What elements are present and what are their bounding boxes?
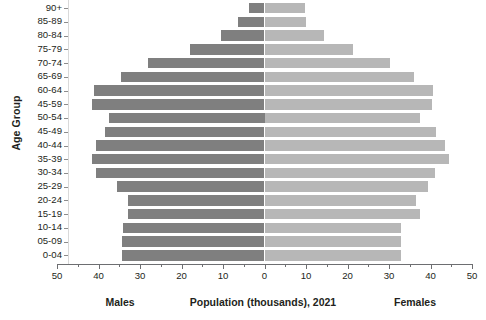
x-axis-major-tick <box>348 264 349 269</box>
caption-males: Males <box>60 296 180 308</box>
bar-female <box>265 85 433 95</box>
bar-male <box>122 236 264 246</box>
y-axis-tick-label: 20-24 <box>16 195 62 205</box>
bar-male <box>105 127 265 137</box>
bar-female <box>265 99 432 109</box>
x-axis-major-tick <box>265 264 266 269</box>
y-axis-tick-label: 60-64 <box>16 85 62 95</box>
bar-female <box>265 209 421 219</box>
y-axis-tick <box>64 91 68 92</box>
x-axis-minor-tick <box>410 264 411 267</box>
y-axis-tick <box>64 228 68 229</box>
bar-male <box>238 17 265 27</box>
y-axis-tick-label: 15-19 <box>16 209 62 219</box>
bar-male <box>128 209 265 219</box>
bar-male <box>92 154 264 164</box>
bar-male <box>128 195 265 205</box>
x-axis-minor-tick <box>202 264 203 267</box>
bar-row <box>57 127 472 137</box>
y-axis-tick-label: 0-04 <box>16 250 62 260</box>
bar-female <box>265 223 402 233</box>
caption-females: Females <box>360 296 470 308</box>
bar-female <box>265 44 353 54</box>
x-axis-major-tick <box>223 264 224 269</box>
bar-row <box>57 72 472 82</box>
x-axis-major-tick <box>57 264 58 269</box>
x-axis-minor-tick <box>119 264 120 267</box>
bar-female <box>265 236 401 246</box>
y-axis-tick-label: 05-09 <box>16 236 62 246</box>
y-axis-tick-label: 45-49 <box>16 126 62 136</box>
x-axis-tick-label: 50 <box>42 270 72 281</box>
y-axis-tick <box>64 132 68 133</box>
y-axis-tick <box>64 159 68 160</box>
bar-female <box>265 3 306 13</box>
y-axis-tick-label: 65-69 <box>16 71 62 81</box>
bar-female <box>265 250 401 260</box>
bar-row <box>57 17 472 27</box>
y-axis-tick <box>64 200 68 201</box>
y-axis-tick <box>64 63 68 64</box>
y-axis-tick <box>64 36 68 37</box>
bar-female <box>265 168 435 178</box>
x-axis-minor-tick <box>161 264 162 267</box>
bar-male <box>123 223 264 233</box>
y-axis-tick <box>64 77 68 78</box>
y-axis-tick-label: 75-79 <box>16 44 62 54</box>
population-pyramid-chart: Age Group 90+85-8980-8475-7970-7465-6960… <box>0 0 486 320</box>
y-axis-tick-label: 35-39 <box>16 154 62 164</box>
bar-row <box>57 154 472 164</box>
y-axis-tick-label: 80-84 <box>16 30 62 40</box>
x-axis-minor-tick <box>78 264 79 267</box>
bar-row <box>57 99 472 109</box>
bar-male <box>92 99 264 109</box>
x-axis-tick-label: 10 <box>208 270 238 281</box>
bar-female <box>265 113 421 123</box>
bar-row <box>57 195 472 205</box>
bar-row <box>57 168 472 178</box>
bar-male <box>121 72 264 82</box>
x-axis-minor-tick <box>285 264 286 267</box>
x-axis-major-tick <box>140 264 141 269</box>
x-axis-tick-label: 40 <box>416 270 446 281</box>
bar-row <box>57 236 472 246</box>
x-axis-tick-label: 20 <box>333 270 363 281</box>
y-axis-tick-label: 25-29 <box>16 181 62 191</box>
bar-male <box>190 44 265 54</box>
x-axis-tick-label: 30 <box>374 270 404 281</box>
bar-row <box>57 44 472 54</box>
y-axis-tick-label: 90+ <box>16 3 62 13</box>
bar-female <box>265 195 416 205</box>
x-axis-tick-label: 30 <box>125 270 155 281</box>
y-axis-tick-label: 45-59 <box>16 99 62 109</box>
y-axis-tick <box>64 146 68 147</box>
bar-male <box>117 181 264 191</box>
x-axis-minor-tick <box>244 264 245 267</box>
bar-row <box>57 58 472 68</box>
bar-male <box>148 58 264 68</box>
x-axis-major-tick <box>472 264 473 269</box>
bar-row <box>57 181 472 191</box>
x-axis-tick-label: 0 <box>250 270 280 281</box>
bar-female <box>265 154 450 164</box>
bar-male <box>96 168 264 178</box>
y-axis-tick-label: 30-34 <box>16 167 62 177</box>
bar-female <box>265 140 446 150</box>
y-axis-tick <box>64 214 68 215</box>
y-axis-tick <box>64 49 68 50</box>
y-axis-tick <box>64 255 68 256</box>
x-axis-tick-label: 50 <box>457 270 486 281</box>
bar-row <box>57 30 472 40</box>
bar-row <box>57 223 472 233</box>
x-axis-major-tick <box>431 264 432 269</box>
plot-area <box>57 0 472 264</box>
x-axis-tick-label: 20 <box>167 270 197 281</box>
bar-row <box>57 85 472 95</box>
bar-female <box>265 58 391 68</box>
caption-axis-title: Population (thousands), 2021 <box>163 296 363 308</box>
bar-male <box>109 113 265 123</box>
y-axis-tick-label: 10-14 <box>16 222 62 232</box>
bar-male <box>249 3 264 13</box>
y-axis-tick-label: 85-89 <box>16 16 62 26</box>
x-axis-tick-label: 10 <box>291 270 321 281</box>
